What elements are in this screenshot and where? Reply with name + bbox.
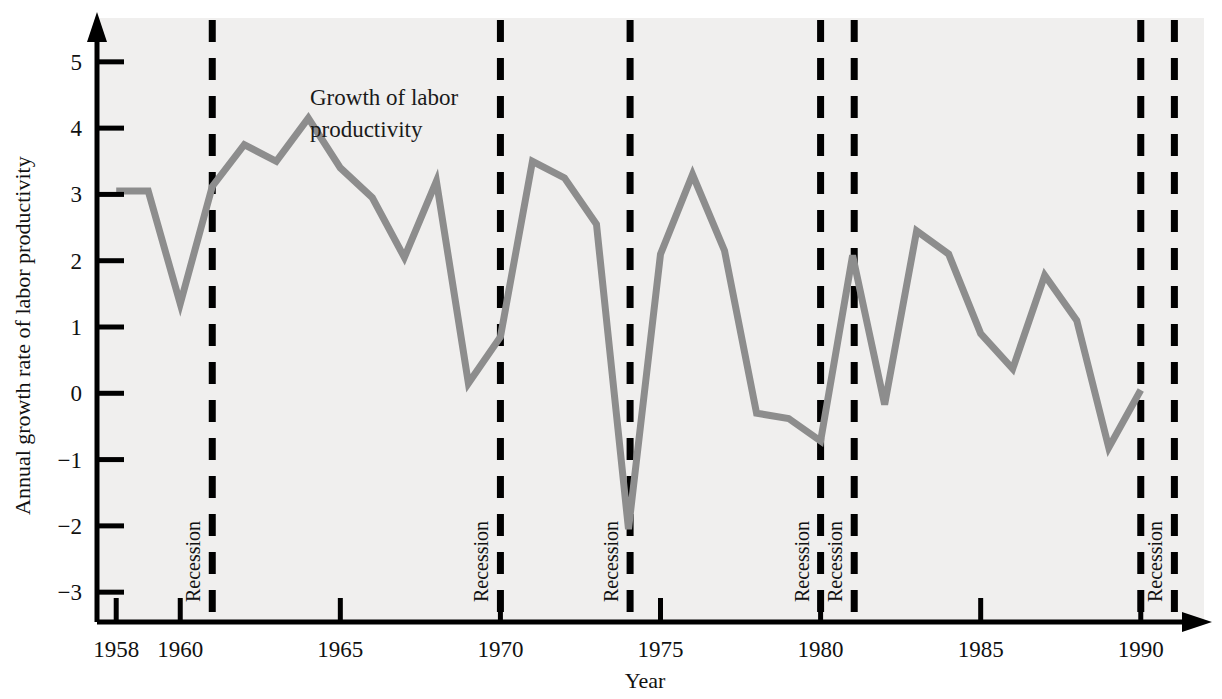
x-axis-title: Year	[625, 668, 666, 693]
y-tick-label: −1	[58, 448, 82, 473]
x-tick-label: 1970	[477, 637, 523, 662]
y-axis-title: Annual growth rate of labor productivity	[10, 156, 35, 515]
recession-label: Recession	[600, 521, 622, 602]
recession-label: Recession	[791, 521, 813, 602]
recession-label: Recession	[182, 521, 204, 602]
x-tick-label: 1990	[1118, 637, 1164, 662]
y-tick-label: −3	[58, 580, 82, 605]
y-tick-label: 5	[71, 50, 83, 75]
x-tick-label: 1975	[638, 637, 684, 662]
y-tick-label: 4	[71, 116, 83, 141]
x-tick-label: 1980	[798, 637, 844, 662]
recession-label: Recession	[824, 521, 846, 602]
y-tick-label: 3	[71, 182, 83, 207]
recession-label: Recession	[1144, 521, 1166, 602]
labor-productivity-line-chart: −3−2−1012345 195819601965197019751980198…	[0, 0, 1222, 699]
recession-label: Recession	[470, 521, 492, 602]
x-tick-label: 1985	[958, 637, 1004, 662]
series-annotation-line-1: Growth of labor	[310, 85, 459, 110]
x-tick-label: 1965	[317, 637, 363, 662]
y-tick-label: 0	[71, 381, 83, 406]
x-tick-label: 1960	[157, 637, 203, 662]
chart-page: −3−2−1012345 195819601965197019751980198…	[0, 0, 1222, 699]
y-tick-label: 2	[71, 249, 83, 274]
y-tick-label: −2	[58, 514, 82, 539]
series-annotation-line-2: productivity	[310, 117, 423, 142]
y-tick-label: 1	[71, 315, 83, 340]
x-tick-label: 1958	[93, 637, 139, 662]
